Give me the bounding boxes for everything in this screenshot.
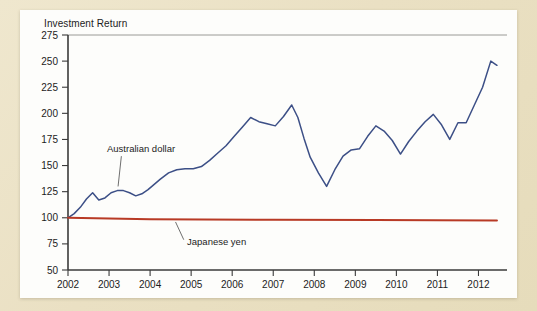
annotation-leader-line bbox=[176, 222, 184, 240]
investment-return-line-chart: 2752502252001751501251007550 20022003200… bbox=[20, 10, 517, 298]
x-tick-label: 2008 bbox=[303, 279, 326, 290]
x-tick-label: 2002 bbox=[57, 279, 80, 290]
y-tick-label: 100 bbox=[41, 212, 58, 223]
y-tick-label: 175 bbox=[41, 134, 58, 145]
annotation-label: Japanese yen bbox=[187, 236, 246, 247]
x-tick-label: 2011 bbox=[427, 279, 449, 290]
x-tick-label: 2009 bbox=[344, 279, 367, 290]
y-tick-label: 150 bbox=[41, 160, 58, 171]
x-tick-label: 2007 bbox=[262, 279, 285, 290]
x-tick-label: 2006 bbox=[221, 279, 244, 290]
y-tick-label: 275 bbox=[41, 30, 58, 41]
x-tick-label: 2012 bbox=[467, 279, 490, 290]
y-tick-label: 250 bbox=[41, 56, 58, 67]
page-root: Investment Return 2752502252001751501251… bbox=[0, 0, 537, 311]
y-tick-label: 225 bbox=[41, 82, 58, 93]
y-tick-label: 200 bbox=[41, 108, 58, 119]
series-line-australian-dollar bbox=[68, 61, 497, 218]
y-tick-label: 50 bbox=[47, 265, 59, 276]
chart-card: Investment Return 2752502252001751501251… bbox=[20, 10, 517, 298]
series-line-japanese-yen bbox=[68, 218, 497, 221]
annotation-label: Australian dollar bbox=[107, 143, 175, 154]
data-series-group bbox=[68, 61, 497, 220]
x-tick-label: 2010 bbox=[385, 279, 408, 290]
x-tick-label: 2005 bbox=[180, 279, 203, 290]
x-tick-label: 2003 bbox=[98, 279, 121, 290]
y-axis-ticks: 2752502252001751501251007550 bbox=[41, 30, 68, 276]
y-tick-label: 75 bbox=[47, 238, 59, 249]
annotation-leader-line bbox=[118, 156, 121, 186]
series-annotations: Australian dollarJapanese yen bbox=[107, 143, 246, 247]
y-tick-label: 125 bbox=[41, 186, 58, 197]
x-axis-ticks: 2002200320042005200620072008200920102011… bbox=[57, 270, 490, 290]
x-tick-label: 2004 bbox=[139, 279, 162, 290]
